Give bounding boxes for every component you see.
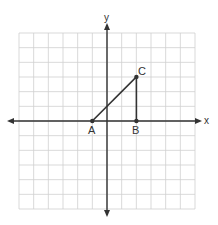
y-axis: y bbox=[104, 12, 110, 217]
point-b-label: B bbox=[132, 124, 139, 136]
x-axis: x bbox=[7, 115, 209, 126]
y-axis-bottom-arrow-icon bbox=[104, 210, 110, 217]
y-axis-top-arrow-icon bbox=[104, 23, 110, 30]
point-a bbox=[90, 119, 94, 123]
segment-ac bbox=[92, 77, 136, 121]
coordinate-plane: x y A B C bbox=[0, 0, 218, 225]
x-axis-label: x bbox=[204, 115, 209, 126]
point-a-label: A bbox=[88, 124, 96, 136]
x-axis-right-arrow-icon bbox=[195, 118, 202, 124]
y-axis-label: y bbox=[104, 12, 109, 23]
x-axis-left-arrow-icon bbox=[7, 118, 14, 124]
point-b bbox=[134, 119, 138, 123]
point-c-label: C bbox=[138, 65, 146, 77]
triangle-abc: A B C bbox=[88, 65, 146, 136]
